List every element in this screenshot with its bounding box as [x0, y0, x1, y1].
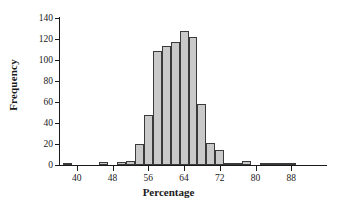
histogram-bar	[63, 163, 72, 165]
histogram-bar	[171, 42, 180, 165]
x-axis-tick-mark	[291, 166, 292, 171]
x-axis-tick-label: 72	[215, 173, 225, 183]
histogram-bar	[99, 162, 108, 165]
histogram-bar	[189, 37, 198, 165]
x-axis-tick-mark	[113, 166, 114, 171]
y-axis-tick-label: 0	[48, 160, 53, 170]
histogram-bar	[242, 161, 251, 165]
x-axis-tick-mark	[148, 166, 149, 171]
y-axis-title: Frequency	[4, 0, 22, 170]
histogram-bar	[215, 150, 224, 165]
histogram-bar	[144, 115, 153, 165]
histogram-bar	[162, 46, 171, 165]
histogram-bar	[135, 144, 144, 165]
x-axis-tick-mark	[256, 166, 257, 171]
y-axis-tick-label: 20	[44, 139, 54, 149]
histogram-bar	[233, 163, 242, 165]
x-axis-tick-mark	[220, 166, 221, 171]
y-axis-tick-label: 140	[39, 13, 53, 23]
y-axis-tick-label: 120	[39, 34, 53, 44]
histogram-bar	[126, 161, 135, 165]
y-axis-tick-label: 100	[39, 55, 53, 65]
histogram-bars	[59, 18, 327, 165]
histogram-bar	[206, 143, 215, 165]
y-axis-tick-label: 60	[44, 97, 54, 107]
x-axis-tick-mark	[77, 166, 78, 171]
x-axis-tick-mark	[184, 166, 185, 171]
histogram-bar	[153, 51, 162, 165]
histogram-bar	[224, 163, 233, 165]
histogram-figure: Frequency 020406080100120140 40485664728…	[0, 0, 337, 212]
x-axis-title: Percentage	[0, 186, 337, 198]
histogram-bar	[269, 163, 278, 165]
x-axis-tick-label: 64	[179, 173, 189, 183]
x-axis-tick-label: 40	[72, 173, 82, 183]
histogram-bar	[287, 163, 296, 165]
x-axis-tick-label: 48	[108, 173, 118, 183]
histogram-bar	[278, 163, 287, 165]
x-axis-ticks: 40485664728088	[59, 166, 327, 188]
y-axis-tick-label: 40	[44, 118, 54, 128]
histogram-bar	[197, 104, 206, 165]
y-axis-tick-label: 80	[44, 76, 54, 86]
y-axis-title-text: Frequency	[7, 59, 19, 111]
histogram-bar	[260, 163, 269, 165]
x-axis-tick-label: 56	[144, 173, 154, 183]
histogram-bar	[117, 162, 126, 165]
x-axis-tick-label: 80	[251, 173, 261, 183]
x-axis-tick-label: 88	[287, 173, 297, 183]
histogram-bar	[180, 31, 189, 165]
